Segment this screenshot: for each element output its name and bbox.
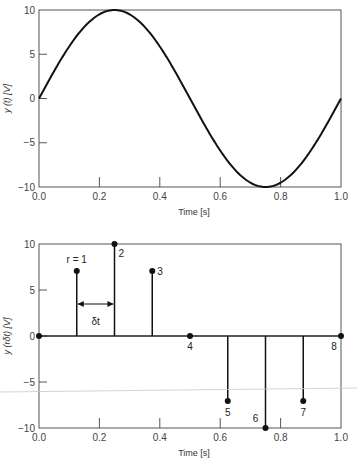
- sample-index-label: r = 1: [67, 254, 88, 265]
- sampling-figure: 1050−5−100.00.20.40.60.81.0Time [s]y (t)…: [0, 0, 357, 463]
- x-axis-label: Time [s]: [178, 448, 210, 458]
- x-tick-label: 0.4: [153, 191, 167, 202]
- x-tick-label: 0.0: [32, 432, 46, 443]
- sample-point: [74, 268, 80, 274]
- y-tick-label: 10: [24, 5, 36, 16]
- sample-index-label: 7: [300, 407, 306, 418]
- delta-t-label: δt: [91, 316, 100, 327]
- x-tick-label: 0.4: [153, 432, 167, 443]
- arrowhead-right-icon: [108, 301, 114, 307]
- x-tick-label: 1.0: [334, 191, 348, 202]
- sample-index-label: 8: [331, 341, 337, 352]
- sample-point: [263, 425, 269, 431]
- x-tick-label: 1.0: [334, 432, 348, 443]
- arrowhead-left-icon: [78, 301, 84, 307]
- y-tick-label: 0: [29, 93, 35, 104]
- sample-point: [112, 241, 118, 247]
- sample-point: [187, 333, 193, 339]
- sample-index-label: 2: [119, 248, 125, 259]
- sampled-signal-plot: 1050−5−100.00.20.40.60.81.0Time [s]y (rδ…: [2, 239, 348, 459]
- y-tick-label: 10: [24, 239, 36, 250]
- y-axis-label: y (rδt) [V]: [2, 317, 12, 355]
- sine-curve: [39, 10, 341, 187]
- x-tick-label: 0.8: [274, 191, 288, 202]
- x-tick-label: 0.0: [32, 191, 46, 202]
- sample-point: [225, 398, 231, 404]
- y-tick-label: 5: [29, 285, 35, 296]
- x-tick-label: 0.6: [213, 432, 227, 443]
- sample-index-label: 5: [225, 407, 231, 418]
- x-tick-label: 0.2: [92, 191, 106, 202]
- y-tick-label: −5: [24, 137, 36, 148]
- sample-index-label: 4: [187, 341, 193, 352]
- sample-index-label: 3: [157, 266, 163, 277]
- y-tick-label: 0: [29, 331, 35, 342]
- sample-index-label: 6: [253, 413, 259, 424]
- y-tick-label: 5: [29, 49, 35, 60]
- sample-point: [338, 333, 344, 339]
- y-tick-label: −5: [24, 377, 36, 388]
- x-tick-label: 0.6: [213, 191, 227, 202]
- continuous-signal-plot: 1050−5−100.00.20.40.60.81.0Time [s]y (t)…: [2, 5, 348, 218]
- x-axis-label: Time [s]: [178, 207, 210, 217]
- x-tick-label: 0.2: [92, 432, 106, 443]
- sample-point: [149, 268, 155, 274]
- sample-point: [300, 398, 306, 404]
- x-tick-label: 0.8: [274, 432, 288, 443]
- y-axis-label: y (t) [V]: [2, 84, 12, 114]
- sample-point: [36, 333, 42, 339]
